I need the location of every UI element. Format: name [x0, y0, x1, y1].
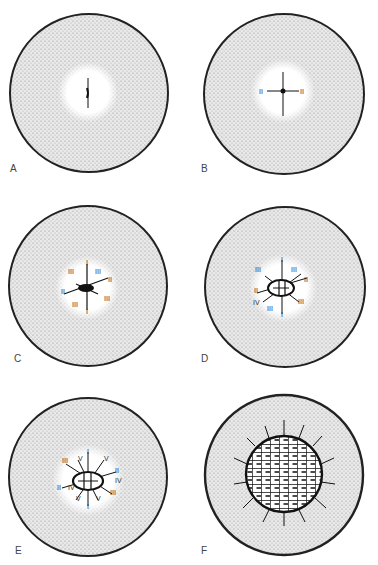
svg-text:II: II [259, 88, 263, 95]
svg-text:IV: IV [68, 484, 75, 491]
cross-section-e: I IIIV VII IVII IVIII VV I [0, 380, 189, 565]
svg-text:II: II [304, 276, 308, 283]
panel-e: I IIIV VII IVII IVIII VV I E [0, 380, 189, 565]
panel-c: I IIIIII IIII IIIIII I C [0, 190, 189, 378]
panel-label-d: D [201, 353, 208, 364]
panel-label-b: B [201, 163, 208, 174]
svg-text:II: II [108, 276, 112, 283]
svg-text:III: III [255, 266, 261, 273]
cross-section-c: I IIIIII IIII IIIIII I [0, 190, 189, 378]
svg-text:III: III [95, 268, 101, 275]
cross-section-d: I IIIIII IIII IVIII IIII [189, 190, 378, 378]
svg-text:V: V [78, 455, 83, 462]
svg-text:I: I [86, 259, 88, 266]
svg-text:II: II [57, 484, 61, 491]
svg-text:II: II [254, 287, 258, 294]
cross-section-b: IIII [189, 0, 378, 188]
svg-text:V: V [76, 495, 81, 502]
svg-text:II: II [115, 467, 119, 474]
svg-text:III: III [68, 268, 74, 275]
panel-label-a: A [10, 163, 17, 174]
svg-text:III: III [72, 301, 78, 308]
svg-text:III: III [298, 298, 304, 305]
svg-text:III: III [291, 266, 297, 273]
svg-text:I: I [281, 311, 283, 318]
svg-text:III: III [110, 489, 116, 496]
svg-text:I: I [87, 448, 89, 455]
svg-text:III: III [267, 305, 273, 312]
svg-text:IV: IV [115, 477, 122, 484]
panel-b: IIII B [189, 0, 378, 188]
panel-label-f: F [201, 545, 207, 556]
cross-section-f [189, 380, 378, 565]
panel-a: A [0, 0, 189, 188]
panel-label-c: C [14, 353, 21, 364]
panel-label-e: E [15, 545, 22, 556]
svg-text:II: II [61, 288, 65, 295]
svg-text:I: I [86, 308, 88, 315]
svg-text:I: I [87, 503, 89, 510]
svg-text:II: II [300, 88, 304, 95]
svg-text:I: I [281, 256, 283, 263]
svg-text:V: V [104, 455, 109, 462]
svg-text:III: III [104, 295, 110, 302]
panel-f: F [189, 380, 378, 565]
svg-text:IV: IV [253, 299, 260, 306]
svg-text:III: III [62, 457, 68, 464]
svg-text:V: V [96, 495, 101, 502]
panel-d: I IIIIII IIII IVIII IIII D [189, 190, 378, 378]
cross-section-a [0, 0, 189, 188]
